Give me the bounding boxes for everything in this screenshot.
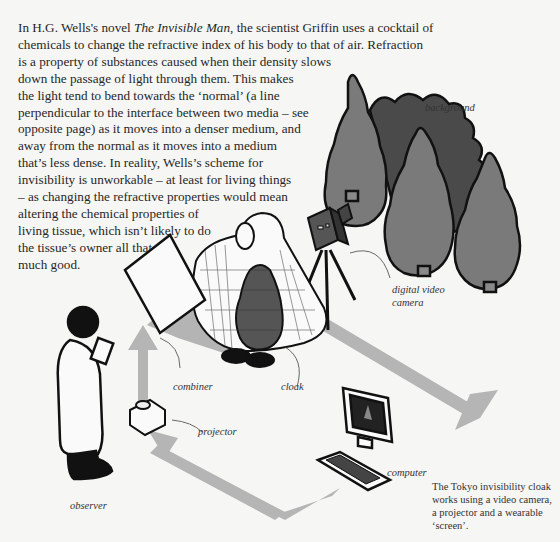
label-projector: projector (198, 426, 237, 437)
background-trees (325, 75, 520, 292)
observer (58, 307, 114, 479)
label-camera-line1: digital video (392, 284, 445, 295)
computer (318, 388, 392, 490)
label-camera-line2: camera (392, 297, 424, 308)
figure-caption: The Tokyo invisibility cloak works using… (432, 480, 552, 532)
label-cloak: cloak (281, 381, 304, 392)
label-background: background (425, 102, 475, 113)
label-observer: observer (70, 500, 107, 511)
invisibility-cloak-illustration (0, 0, 560, 542)
label-computer: computer (387, 467, 427, 478)
label-combiner: combiner (173, 381, 213, 392)
projector (130, 400, 165, 435)
